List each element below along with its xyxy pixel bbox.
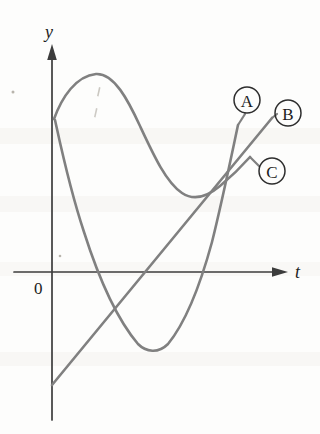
y-axis-arrowhead [47,44,57,60]
leader-line-a [238,114,245,125]
label-c-text: C [266,163,277,182]
scan-artifacts [0,87,320,366]
label-b-text: B [282,105,293,124]
label-badge-c[interactable]: C [259,158,285,184]
origin-label: 0 [34,279,43,298]
curve-a-path [55,120,238,351]
label-badge-b[interactable]: B [275,100,301,126]
label-a-text: A [241,92,254,111]
leader-line-c [250,157,259,166]
figure-canvas: A B C y t 0 [0,0,320,434]
label-badge-a[interactable]: A [234,87,260,113]
plot-svg: A B C y t 0 [0,0,320,434]
y-axis-label: y [43,22,53,42]
curve-b-line [52,118,272,385]
